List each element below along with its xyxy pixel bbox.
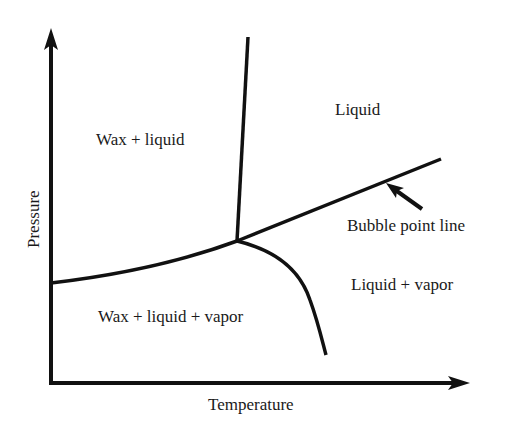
y-axis-label: Pressure — [25, 190, 42, 248]
bubble-point-pointer-arrow — [386, 183, 422, 209]
three-phase-boundary-curve — [51, 241, 237, 283]
wax-appearance-line — [237, 37, 248, 241]
region-label-liquid: Liquid — [335, 101, 380, 118]
phase-diagram — [0, 0, 515, 428]
wax-vapor-boundary-curve — [237, 241, 326, 355]
region-label-liquid-vapor: Liquid + vapor — [351, 276, 453, 293]
x-axis — [49, 376, 470, 390]
x-axis-label: Temperature — [208, 396, 294, 413]
region-label-wax-liquid: Wax + liquid — [96, 131, 185, 148]
region-label-wax-liquid-vapor: Wax + liquid + vapor — [98, 308, 243, 325]
annotation-bubble-point-line: Bubble point line — [347, 217, 465, 234]
y-axis — [44, 28, 58, 383]
